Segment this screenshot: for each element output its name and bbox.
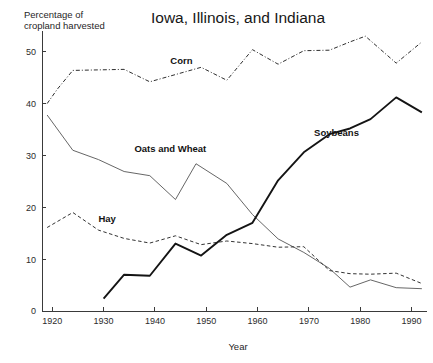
y-axis-label-line2: cropland harvested bbox=[24, 20, 105, 31]
x-tick-label: 1990 bbox=[402, 316, 422, 326]
y-tick-label: 50 bbox=[26, 47, 36, 57]
series-line-soybeans bbox=[104, 97, 422, 298]
x-tick-label: 1920 bbox=[42, 316, 62, 326]
chart-title: Iowa, Illinois, and Indiana bbox=[151, 9, 325, 26]
series-line-corn bbox=[47, 36, 422, 103]
tick-labels-layer: 0102030405019201930194019501960197019801… bbox=[26, 47, 422, 326]
series-label-corn: Corn bbox=[170, 55, 192, 66]
line-chart: 0102030405019201930194019501960197019801… bbox=[0, 0, 433, 363]
axes-layer bbox=[42, 31, 427, 311]
x-tick-label: 1980 bbox=[350, 316, 370, 326]
x-tick-label: 1940 bbox=[145, 316, 165, 326]
x-tick-label: 1970 bbox=[299, 316, 319, 326]
y-tick-label: 40 bbox=[26, 99, 36, 109]
x-tick-label: 1960 bbox=[248, 316, 268, 326]
series-layer bbox=[47, 36, 422, 298]
series-line-oats-and-wheat bbox=[47, 115, 422, 289]
chart-container: 0102030405019201930194019501960197019801… bbox=[0, 0, 433, 363]
y-axis-label-line1: Percentage of bbox=[24, 9, 84, 20]
series-label-soybeans: Soybeans bbox=[314, 127, 359, 138]
y-tick-label: 0 bbox=[31, 306, 36, 316]
y-tick-label: 20 bbox=[26, 203, 36, 213]
x-axis-label: Year bbox=[228, 341, 247, 352]
series-label-oats-and-wheat: Oats and Wheat bbox=[134, 143, 207, 154]
y-tick-label: 30 bbox=[26, 151, 36, 161]
series-labels-layer: CornOats and WheatHaySoybeans bbox=[98, 55, 358, 224]
x-tick-label: 1950 bbox=[196, 316, 216, 326]
y-tick-label: 10 bbox=[26, 255, 36, 265]
series-label-hay: Hay bbox=[98, 213, 116, 224]
x-tick-label: 1930 bbox=[94, 316, 114, 326]
